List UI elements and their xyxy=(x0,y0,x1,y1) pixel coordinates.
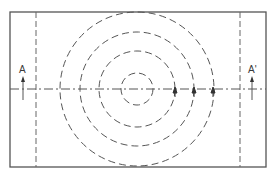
section-label-a-prime: A' xyxy=(248,64,257,75)
section-marker-a-prime: A' xyxy=(248,64,257,100)
section-label-a: A xyxy=(19,64,26,75)
up-arrow-icon xyxy=(250,76,254,82)
section-marker-a: A xyxy=(19,64,26,100)
section-diagram: A A' xyxy=(0,0,275,178)
flow-arrows xyxy=(173,87,215,97)
up-arrow-icon xyxy=(21,76,25,82)
